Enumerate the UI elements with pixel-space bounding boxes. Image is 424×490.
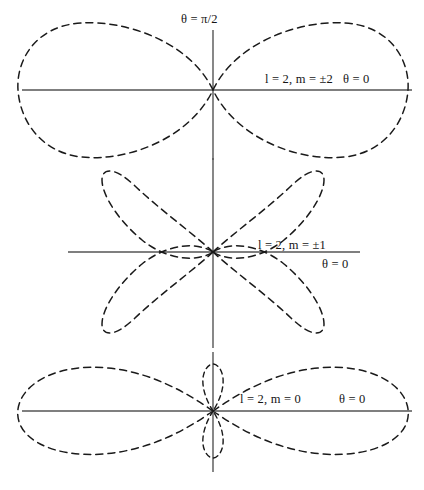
panel-middle-group (68, 158, 360, 348)
label-theta-pi-over-2: θ = π/2 (181, 12, 218, 27)
label-panel-top-lm: l = 2, m = ±2 (265, 72, 333, 87)
polar-radiation-figure: θ = π/2 l = 2, m = ±2 θ = 0 l = 2, m = ±… (0, 0, 424, 490)
label-panel-bottom-theta-zero: θ = 0 (339, 392, 366, 407)
panel-top-group (18, 23, 412, 160)
panel-bottom-group (18, 352, 412, 472)
middle-lobe-upper-left (102, 171, 213, 258)
middle-lobe-lower-right (213, 246, 324, 333)
label-panel-middle-lm: l = 2, m = ±1 (258, 238, 326, 253)
label-panel-bottom-lm: l = 2, m = 0 (240, 392, 301, 407)
label-panel-middle-theta-zero: θ = 0 (322, 257, 349, 272)
middle-lobe-lower-left (102, 246, 213, 333)
label-panel-top-theta-zero: θ = 0 (343, 72, 370, 87)
